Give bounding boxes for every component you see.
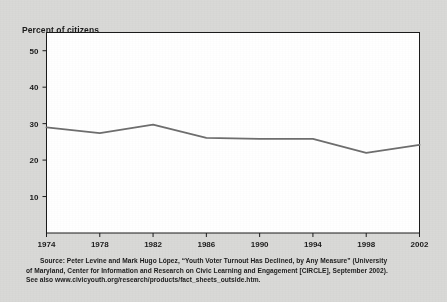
- y-tick-label: 30: [30, 120, 39, 129]
- x-tick-label: 1998: [357, 240, 375, 249]
- x-tick-label: 1978: [91, 240, 109, 249]
- x-tick-label: 1990: [251, 240, 269, 249]
- x-tick-label: 2002: [411, 240, 429, 249]
- source-line-2: of Maryland, Center for Information and …: [26, 266, 436, 276]
- x-tick-label: 1994: [304, 240, 322, 249]
- source-note: Source: Peter Levine and Mark Hugo López…: [26, 256, 436, 285]
- y-tick-label: 20: [30, 156, 39, 165]
- source-line-1: Source: Peter Levine and Mark Hugo López…: [26, 256, 436, 266]
- x-axis-ticks: 19741978198219861990199419982002: [38, 233, 429, 249]
- chart-figure: Percent of citizens 1020304050 197419781…: [0, 0, 447, 302]
- x-tick-label: 1974: [38, 240, 56, 249]
- x-tick-label: 1982: [144, 240, 162, 249]
- y-axis-ticks: 1020304050: [30, 47, 47, 202]
- y-tick-label: 40: [30, 83, 39, 92]
- y-tick-label: 10: [30, 193, 39, 202]
- source-line-3: See also www.civicyouth.org/research/pro…: [26, 275, 436, 285]
- x-tick-label: 1986: [197, 240, 215, 249]
- y-tick-label: 50: [30, 47, 39, 56]
